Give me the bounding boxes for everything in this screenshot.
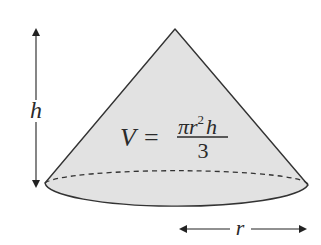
formula-exponent: 2 <box>198 112 205 127</box>
formula-numerator: πr2h <box>178 112 217 139</box>
cone-diagram: h r V = πr2h 3 <box>0 0 321 245</box>
formula-h: h <box>206 114 217 139</box>
radius-label: r <box>236 215 245 240</box>
formula-denominator: 3 <box>198 138 209 163</box>
cone-body <box>45 29 308 206</box>
radius-dimension: r <box>181 215 305 240</box>
height-dimension: h <box>30 30 42 186</box>
height-label: h <box>30 97 42 123</box>
formula-equals: = <box>144 123 159 152</box>
